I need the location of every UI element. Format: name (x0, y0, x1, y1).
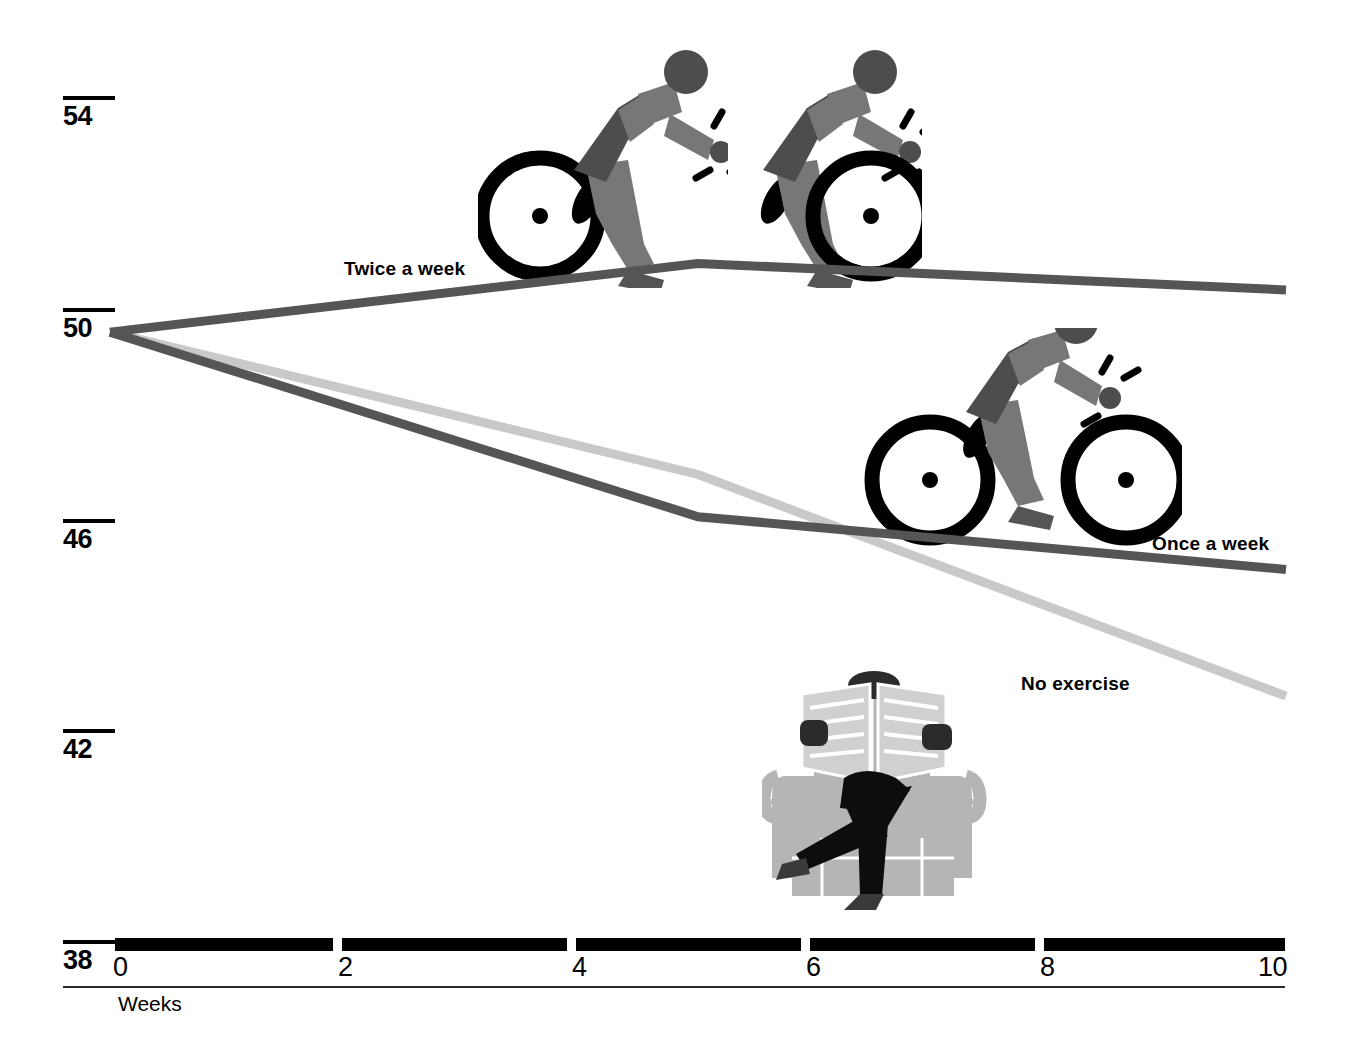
series-label-twice-a-week: Twice a week (344, 258, 465, 280)
x-axis-segment (1044, 938, 1285, 951)
x-axis-caption: Weeks (118, 991, 182, 1017)
series-label-no-exercise: No exercise (1021, 673, 1130, 695)
x-tick-label-2: 2 (338, 952, 353, 982)
x-axis-segment (810, 938, 1035, 951)
x-axis-segment (342, 938, 567, 951)
x-tick-label-10: 10 (1258, 952, 1287, 982)
series-line-once-a-week (110, 332, 1286, 569)
series-label-once-a-week: Once a week (1152, 533, 1269, 555)
x-axis-segment (115, 938, 333, 951)
x-tick-label-0: 0 (113, 952, 128, 982)
x-tick-label-8: 8 (1040, 952, 1055, 982)
x-tick-label-4: 4 (572, 952, 587, 982)
series-lines (0, 0, 1348, 1061)
x-tick-label-6: 6 (806, 952, 821, 982)
x-axis-bar (115, 938, 1285, 951)
x-axis-segment (576, 938, 801, 951)
axis-underline-rule (63, 986, 1285, 988)
series-line-twice-a-week (110, 264, 1286, 333)
chart-canvas: 54 50 46 42 38 (0, 0, 1348, 1061)
